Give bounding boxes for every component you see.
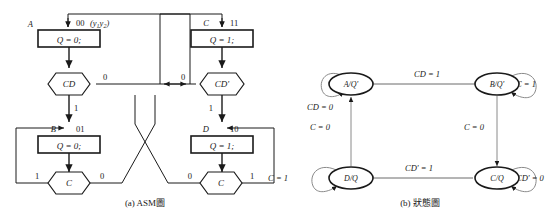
- asm-state-code-d: 10: [230, 124, 239, 134]
- state-node-label-a: A/Q': [343, 80, 359, 89]
- asm-state-name-c: C: [203, 18, 209, 28]
- asm-decision-label-cdp: CD': [215, 79, 231, 89]
- asm-branch-label-c-right-0: 0: [188, 171, 192, 181]
- state-edge-label-c-d: CD' = 1: [405, 163, 433, 173]
- asm-action-b: Q = 0;: [57, 141, 82, 151]
- asm-decision-label-cd: CD: [63, 79, 76, 89]
- asm-branch-label-cdp-1: 1: [209, 103, 213, 113]
- asm-state-code-c: 11: [230, 18, 238, 28]
- asm-branch-label-c-right-1: 1: [250, 171, 254, 181]
- figure-container: A 00 (y1y2) Q = 0; CD 0 1 C 11 Q = 1; CD…: [0, 0, 546, 224]
- asm-branch-label-cd-1: 1: [74, 103, 78, 113]
- asm-diagram: A 00 (y1y2) Q = 0; CD 0 1 C 11 Q = 1; CD…: [16, 14, 274, 208]
- asm-state-name-d: D: [202, 124, 210, 134]
- state-diagram: CD = 0 CD = 1 C = 1 C = 0 CD' = 0 CD' = …: [268, 69, 545, 208]
- asm-state-code-b: 01: [76, 124, 85, 134]
- asm-rail-c-top: [160, 14, 222, 27]
- state-node-label-c: C/Q: [490, 174, 504, 183]
- state-edge-label-a-self: CD = 0: [307, 102, 334, 112]
- state-edge-label-a-b: CD = 1: [414, 69, 440, 79]
- caption-asm: (a) ASM圖: [125, 198, 165, 208]
- asm-rail-a-top: [68, 14, 190, 27]
- state-node-label-b: B/Q': [490, 80, 505, 89]
- asm-branch-label-c-left-0: 0: [100, 171, 104, 181]
- asm-action-d: Q = 1;: [210, 141, 235, 151]
- asm-state-code-note-a: (y1y2): [90, 18, 109, 29]
- asm-decision-label-c-left: C: [66, 178, 73, 188]
- state-edge-label-d-a: C = 0: [310, 122, 331, 132]
- asm-state-name-b: B: [51, 124, 56, 134]
- state-edge-label-b-c: C = 0: [464, 122, 485, 132]
- state-edge-label-d-self: C = 1: [268, 173, 288, 183]
- asm-action-a: Q = 0;: [57, 35, 82, 45]
- asm-decision-label-c-right: C: [218, 178, 225, 188]
- state-node-label-d: D/Q: [343, 174, 358, 183]
- state-edge-label-c-self: CD' = 0: [516, 173, 545, 183]
- asm-branch-label-c-left-1: 1: [35, 171, 39, 181]
- asm-state-code-a: 00: [76, 18, 85, 28]
- asm-action-c: Q = 1;: [210, 35, 235, 45]
- asm-state-name-a: A: [27, 19, 34, 29]
- asm-branch-label-cd-0: 0: [103, 72, 107, 82]
- caption-state: (b) 狀態圖: [400, 197, 440, 208]
- asm-branch-label-cdp-0: 0: [181, 72, 185, 82]
